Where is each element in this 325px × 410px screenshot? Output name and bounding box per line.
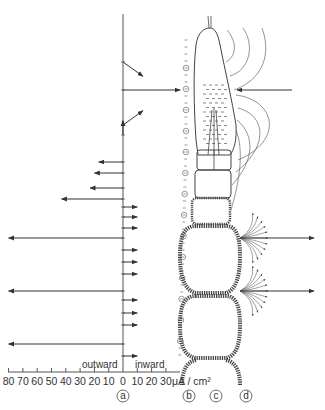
scale-tick-label: 20 <box>89 375 101 387</box>
field-lines <box>226 28 269 210</box>
field-line <box>240 216 258 238</box>
current-vectors <box>9 62 181 356</box>
panel-label-a: a <box>117 390 129 402</box>
svg-text:a: a <box>120 390 126 401</box>
field-line <box>240 221 262 238</box>
scale-ticks: 80706050403020100102030 <box>3 368 172 387</box>
panel-label-d: d <box>240 390 252 402</box>
current-vector-arrow <box>123 62 143 76</box>
apical-cell-2 <box>195 170 231 198</box>
scale-tick-label: 0 <box>120 375 126 387</box>
scale-tick-label: 50 <box>46 375 58 387</box>
field-line <box>240 238 262 255</box>
panel-label-c: c <box>210 390 222 402</box>
scale-tick-label: 60 <box>31 375 43 387</box>
segment-1 <box>180 226 240 293</box>
panel-label-b: b <box>183 390 195 402</box>
svg-text:d: d <box>243 390 249 401</box>
root-hair-cell-drawing <box>177 16 269 385</box>
scale-tick-label: 10 <box>131 375 143 387</box>
field-line <box>240 291 262 308</box>
tip-filament <box>208 16 211 28</box>
unit-label: μA / cm² <box>172 375 211 387</box>
scale-tick-label: 30 <box>160 375 172 387</box>
apical-cell-3 <box>192 198 230 224</box>
cytoplasm-granules <box>203 85 227 144</box>
scale-tick-label: 70 <box>17 375 29 387</box>
segment-2 <box>180 296 240 358</box>
scale-tick-label: 20 <box>146 375 158 387</box>
scale-tick-label: 30 <box>74 375 86 387</box>
field-line <box>240 269 258 291</box>
field-line <box>240 291 258 313</box>
outward-label: outward <box>82 359 118 370</box>
field-line <box>240 274 262 291</box>
scale-tick-label: 80 <box>3 375 15 387</box>
inward-label: inward <box>135 359 164 370</box>
bioelectric-current-diagram: 80706050403020100102030 outward inward μ… <box>0 0 325 410</box>
field-line <box>240 238 258 260</box>
svg-text:c: c <box>214 390 219 401</box>
current-vector-arrow <box>123 111 143 125</box>
svg-text:b: b <box>186 390 192 401</box>
junction-fans <box>240 213 268 316</box>
scale-tick-label: 40 <box>60 375 72 387</box>
scale-tick-label: 10 <box>103 375 115 387</box>
tip-cell <box>194 28 236 155</box>
